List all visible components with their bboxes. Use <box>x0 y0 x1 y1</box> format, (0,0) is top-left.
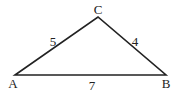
vertex-label-a: A <box>8 76 18 91</box>
vertex-label-b: B <box>162 76 171 91</box>
vertex-label-c: C <box>94 2 103 17</box>
triangle-abc <box>15 17 166 75</box>
side-label-ab: 7 <box>89 78 96 93</box>
side-label-cb: 4 <box>132 34 139 49</box>
side-label-ac: 5 <box>50 34 57 49</box>
triangle-diagram: C A B 5 4 7 <box>0 0 180 95</box>
